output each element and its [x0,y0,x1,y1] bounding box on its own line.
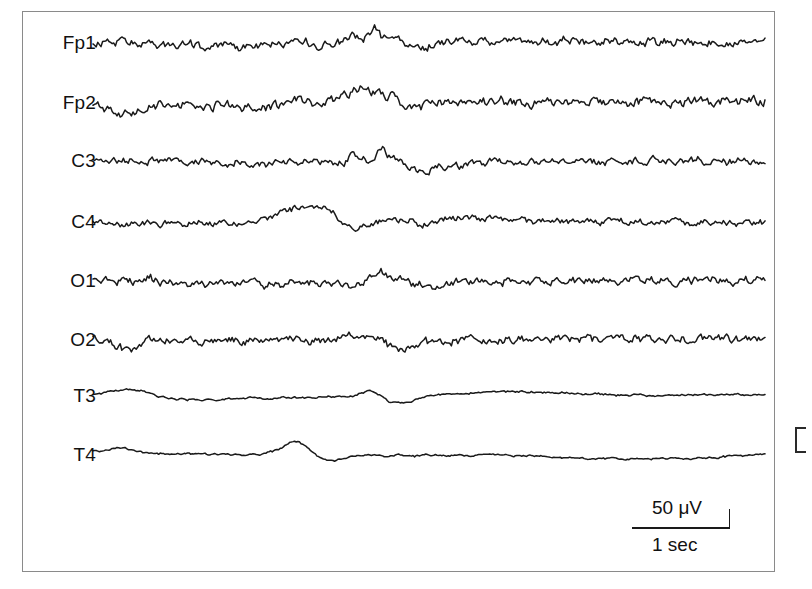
traces-group [93,25,765,461]
channel-label-t4: T4 [36,444,96,466]
scalebar-vertical-tick [729,509,731,527]
channel-label-c3: C3 [36,150,96,172]
eeg-trace-fp1 [93,25,765,51]
channel-label-o2: O2 [36,329,96,351]
channel-label-fp1: Fp1 [36,32,96,54]
eeg-trace-o1 [93,268,765,289]
channel-label-o1: O1 [36,270,96,292]
eeg-chart-area: Fp1 Fp2 C3 C4 O1 O2 T3 T4 50 μV 1 sec [0,0,812,589]
page-edge-bracket-mark [795,427,806,453]
time-scale-label: 1 sec [652,534,697,556]
eeg-trace-o2 [93,332,765,352]
eeg-trace-fp2 [93,86,765,117]
channel-label-t3: T3 [36,385,96,407]
channel-label-c4: C4 [36,211,96,233]
eeg-trace-t3 [93,389,765,403]
channel-label-fp2: Fp2 [36,92,96,114]
eeg-figure: Fp1 Fp2 C3 C4 O1 O2 T3 T4 50 μV 1 sec [0,0,812,589]
eeg-trace-c4 [93,205,765,231]
scalebar-horizontal-line [632,527,730,529]
eeg-trace-t4 [93,441,765,461]
eeg-trace-c3 [93,146,765,174]
amplitude-scale-label: 50 μV [652,497,702,519]
